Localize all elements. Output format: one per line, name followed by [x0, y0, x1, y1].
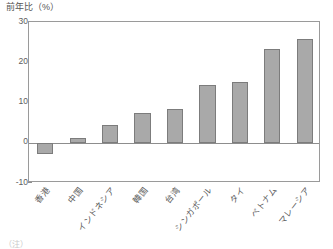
- bar-タイ: [232, 82, 248, 143]
- bar-chart-figure: 前年比（%） -100102030 香港中国インドネシア韓国台湾シンガポールタイ…: [0, 0, 333, 249]
- plot-inner: [29, 22, 319, 181]
- x-tick-label-text: 香港: [33, 185, 52, 205]
- bar-インドネシア: [102, 125, 118, 142]
- chart-axis-title: 前年比（%）: [6, 2, 59, 13]
- bar-香港: [37, 143, 53, 154]
- y-axis-labels: -100102030: [0, 21, 28, 182]
- chart-caption: （注）: [4, 240, 28, 249]
- bar-中国: [70, 138, 86, 143]
- x-tick-label-text: タイ: [228, 185, 247, 205]
- x-tick-label-text: マレーシア: [276, 185, 312, 227]
- y-tick-label: 20: [19, 57, 28, 66]
- bar-シンガポール: [199, 85, 215, 143]
- bar-台湾: [167, 109, 183, 143]
- x-tick-label-text: 中国: [66, 185, 85, 205]
- x-tick-label-text: 韓国: [130, 185, 149, 205]
- x-axis-labels: 香港中国インドネシア韓国台湾シンガポールタイベトナムマレーシア: [28, 182, 320, 249]
- x-tick-label-text: 台湾: [163, 185, 182, 205]
- plot-area: [28, 21, 320, 182]
- y-tick-label: -10: [16, 178, 28, 187]
- bar-ベトナム: [264, 49, 280, 143]
- bar-マレーシア: [297, 39, 313, 142]
- y-tick-label: 30: [19, 17, 28, 26]
- y-tick-label: 10: [19, 97, 28, 106]
- bar-韓国: [134, 113, 150, 142]
- x-tick-label-text: ベトナム: [249, 185, 279, 220]
- zero-baseline: [29, 143, 319, 144]
